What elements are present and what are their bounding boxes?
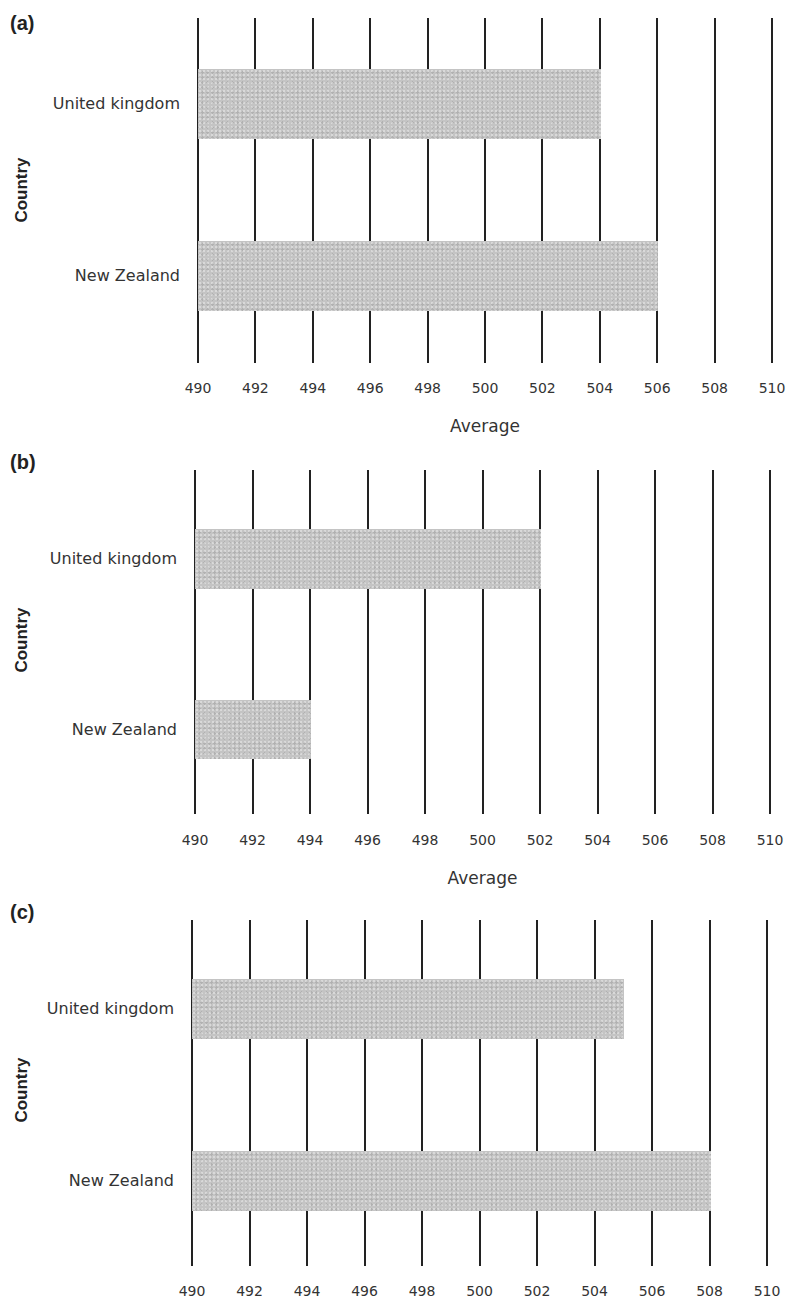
gridline <box>421 920 423 1266</box>
x-tick-label: 492 <box>230 1283 270 1299</box>
gridline <box>594 920 596 1266</box>
x-tick-label: 500 <box>460 1283 500 1299</box>
gridline <box>766 920 768 1266</box>
x-tick-label: 506 <box>632 1283 672 1299</box>
gridline <box>306 920 308 1266</box>
gridline <box>651 920 653 1266</box>
x-tick-label: 494 <box>287 1283 327 1299</box>
x-tick-label: 502 <box>517 1283 557 1299</box>
gridline <box>364 920 366 1266</box>
x-tick-label: 504 <box>575 1283 615 1299</box>
x-tick-label: 490 <box>172 1283 212 1299</box>
x-tick-label: 496 <box>345 1283 385 1299</box>
chart-panel-c: (c) Country United kingdom New Zealand 4… <box>0 0 797 1316</box>
gridline <box>479 920 481 1266</box>
x-tick-label: 510 <box>747 1283 787 1299</box>
category-label-nz: New Zealand <box>69 1171 174 1190</box>
gridline <box>191 920 193 1266</box>
gridline <box>709 920 711 1266</box>
x-tick-label: 508 <box>690 1283 730 1299</box>
gridline <box>536 920 538 1266</box>
gridline <box>249 920 251 1266</box>
bar-new-zealand <box>192 1151 711 1211</box>
x-tick-label: 498 <box>402 1283 442 1299</box>
bar-united-kingdom <box>192 979 624 1039</box>
y-axis-title: Country <box>12 1050 32 1130</box>
panel-label: (c) <box>10 901 34 924</box>
category-label-uk: United kingdom <box>47 999 174 1018</box>
